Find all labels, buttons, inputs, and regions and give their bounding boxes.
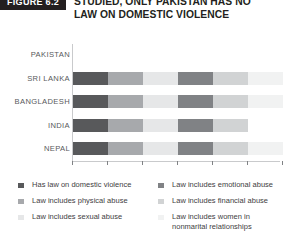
bar-segment [213,119,248,132]
legend-column-2: Law includes emotional abuseLaw includes… [158,180,283,233]
axis-baseline [72,161,280,162]
bar-segment [178,119,213,132]
legend-item-label: Law includes emotional abuse [172,180,283,190]
legend-item-label: Law includes women in nonmarital relatio… [172,212,283,231]
chart-plot-area: PAKISTANSRI LANKABANGLADESHINDIANEPAL [0,40,283,168]
legend-item-label: Law includes financial abuse [172,196,283,206]
bar-segment [73,95,108,108]
category-label-sri-lanka: SRI LANKA [0,74,70,83]
bar-segment [73,142,108,155]
figure-container: FIGURE 6.2 STUDIED, ONLY PAKISTAN HAS NO… [0,0,283,250]
legend-item-label: Law includes sexual abuse [32,212,158,222]
axis-tick [247,161,248,165]
legend-item[interactable]: Law includes sexual abuse [18,212,158,226]
category-label-nepal: NEPAL [0,144,70,153]
legend-column-1: Has law on domestic violenceLaw includes… [18,180,158,228]
bar-segment [178,95,213,108]
legend-item[interactable]: Law includes emotional abuse [158,180,283,194]
figure-title-line-1: STUDIED, ONLY PAKISTAN HAS NO [74,0,280,9]
bar-segment [143,119,178,132]
bar-segment [73,119,108,132]
bar-segment [108,95,143,108]
axis-tick [212,161,213,165]
axis-tick [177,161,178,165]
axis-tick [107,161,108,165]
figure-title-line-2: LAW ON DOMESTIC VIOLENCE [74,9,280,22]
legend-swatch-icon [18,183,24,189]
category-label-bangladesh: BANGLADESH [0,97,70,106]
legend-item[interactable]: Law includes physical abuse [18,196,158,210]
bar-segment [178,72,213,85]
legend-swatch-icon [158,199,164,205]
figure-title: STUDIED, ONLY PAKISTAN HAS NO LAW ON DOM… [74,0,280,21]
figure-header: FIGURE 6.2 STUDIED, ONLY PAKISTAN HAS NO… [0,0,283,34]
legend-swatch-icon [158,215,164,221]
category-label-pakistan: PAKISTAN [0,50,70,59]
bar-segment [108,72,143,85]
legend-swatch-icon [18,215,24,221]
figure-number-tag: FIGURE 6.2 [0,0,66,10]
bar-segment [213,95,248,108]
bar-segment [213,142,248,155]
category-axis-labels: PAKISTANSRI LANKABANGLADESHINDIANEPAL [0,40,70,162]
bar-segment [143,95,178,108]
axis-tick [72,161,73,165]
bar-segment [248,95,283,108]
bar-segment [143,72,178,85]
bar-segment [178,142,213,155]
legend-item[interactable]: Has law on domestic violence [18,180,158,194]
category-label-india: INDIA [0,121,70,130]
legend-swatch-icon [158,183,164,189]
bar-segment [73,72,108,85]
bar-segment [143,142,178,155]
bar-segment [248,142,283,155]
bar-segment [108,142,143,155]
axis-tick [142,161,143,165]
legend-item[interactable]: Law includes financial abuse [158,196,283,210]
axis-tick [282,161,283,165]
legend-item-label: Law includes physical abuse [32,196,158,206]
bar-segment [248,72,283,85]
bar-segment [213,72,248,85]
chart-legend: Has law on domestic violenceLaw includes… [0,180,283,246]
legend-item[interactable]: Law includes women in nonmarital relatio… [158,212,283,231]
horizontal-axis [72,161,280,169]
bar-segment [108,119,143,132]
legend-swatch-icon [18,199,24,205]
legend-item-label: Has law on domestic violence [32,180,158,190]
stacked-bars-group [73,40,283,162]
